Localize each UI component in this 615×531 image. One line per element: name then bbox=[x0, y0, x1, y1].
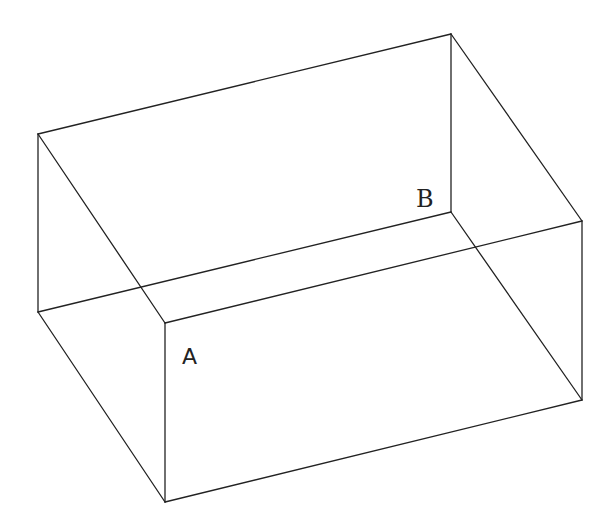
cuboid-diagram: A B bbox=[0, 0, 615, 531]
edge-bottom-front bbox=[165, 400, 582, 502]
edge-top-front bbox=[165, 221, 582, 323]
edge-top-right bbox=[451, 34, 582, 221]
edge-bottom-right bbox=[451, 212, 582, 400]
edge-bottom-left bbox=[38, 312, 165, 502]
vertex-label-a: A bbox=[182, 344, 197, 369]
edge-top-back bbox=[38, 34, 451, 134]
edge-top-left bbox=[38, 134, 165, 323]
vertex-label-b: B bbox=[416, 185, 434, 213]
